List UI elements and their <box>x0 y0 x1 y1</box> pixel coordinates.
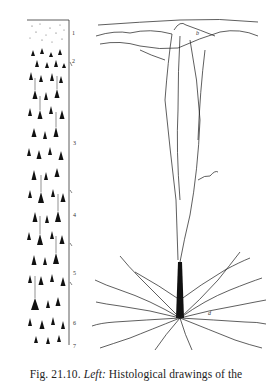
caption-emphasis: Left: <box>84 368 106 380</box>
figure-caption: Fig. 21.10. Left: Histological drawings … <box>0 368 272 380</box>
letter-label-b: b <box>196 30 199 36</box>
caption-prefix: Fig. 21.10. <box>30 368 81 380</box>
layer-label-4: 4 <box>73 212 76 218</box>
layer-label-7: 7 <box>73 343 76 349</box>
figure: 1 2 3 4 5 6 7 b d <box>0 0 272 352</box>
caption-text: Histological drawings of the <box>109 368 242 380</box>
layer-label-6: 6 <box>73 320 76 326</box>
pyramidal-cells <box>27 48 66 344</box>
cortical-layers-drawing <box>0 0 272 352</box>
letter-label-d: d <box>208 310 211 316</box>
layer-label-3: 3 <box>73 140 76 146</box>
pyramidal-neuron <box>92 19 266 350</box>
layer-label-5: 5 <box>73 270 76 276</box>
layer-label-1: 1 <box>72 30 75 36</box>
layer-label-2: 2 <box>72 58 75 64</box>
